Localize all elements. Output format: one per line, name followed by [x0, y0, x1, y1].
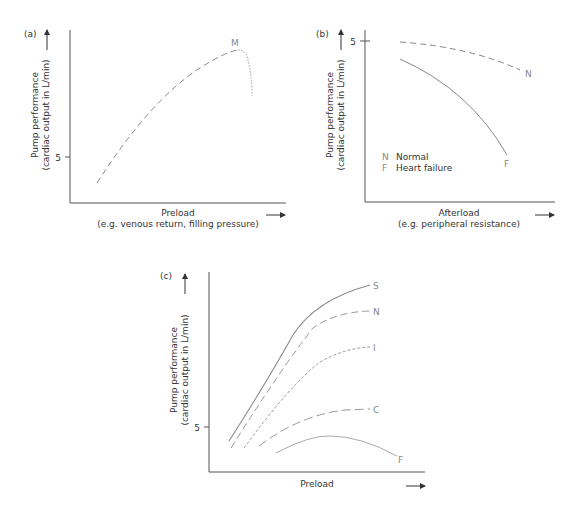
curve-f: [276, 436, 397, 456]
curve-label-i: I: [373, 343, 376, 353]
y-axis-label: Pump performance: [325, 72, 335, 158]
y-tick-label: 5: [350, 37, 356, 47]
y-axis-label: Pump performance: [169, 327, 179, 413]
y-tick-label: 5: [194, 423, 200, 433]
curve-label-c: C: [373, 405, 379, 415]
y-tick-label: 5: [55, 153, 61, 163]
curve-label-n: N: [525, 69, 532, 79]
panel-b: (b) 5 Pump performance (cardiac output i…: [316, 29, 555, 229]
panel-a: (a) 5 Pump performance (cardiac output i…: [24, 29, 286, 229]
x-axis-sublabel: (e.g. peripheral resistance): [398, 219, 520, 229]
curve-f-heart-failure: [400, 59, 507, 155]
y-axis-sublabel: (cardiac output in L/min): [41, 59, 51, 170]
curve-label-s: S: [373, 281, 379, 291]
legend-key-f: F: [382, 163, 387, 173]
curve-label-m: M: [231, 38, 239, 48]
legend-label-normal: Normal: [396, 152, 429, 162]
curve-n: [231, 311, 370, 448]
curve-m-dotted: [238, 50, 252, 96]
panel-a-tag: (a): [24, 29, 37, 39]
x-axis-label: Preload: [161, 208, 195, 218]
panel-c: (c) 5 Pump performance (cardiac output i…: [160, 271, 425, 489]
legend-label-heart-failure: Heart failure: [396, 163, 453, 173]
y-axis-label: Pump performance: [30, 72, 40, 158]
curve-label-f: F: [504, 159, 509, 169]
x-axis-label: Afterload: [439, 208, 480, 218]
panel-c-tag: (c): [160, 271, 172, 281]
legend-key-n: N: [382, 152, 389, 162]
curve-label-n: N: [373, 307, 380, 317]
x-axis-label: Preload: [300, 479, 334, 489]
panel-b-tag: (b): [316, 29, 329, 39]
curve-c: [259, 409, 370, 446]
y-axis-sublabel: (cardiac output in L/min): [336, 59, 346, 170]
curve-i: [244, 347, 370, 448]
curve-label-f: F: [398, 455, 403, 465]
curve-n-normal: [400, 42, 520, 70]
figure: (a) 5 Pump performance (cardiac output i…: [0, 0, 578, 505]
x-axis-sublabel: (e.g. venous return, filling pressure): [97, 219, 259, 229]
legend: N Normal F Heart failure: [382, 152, 453, 173]
y-axis-sublabel: (cardiac output in L/min): [180, 314, 190, 425]
curve-m-dashed: [97, 50, 238, 183]
